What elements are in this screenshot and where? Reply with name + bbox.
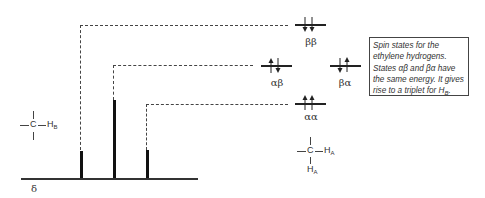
connector-middle-vertical <box>113 65 114 100</box>
bond-top <box>310 137 311 145</box>
delta-axis-label: δ <box>28 183 40 194</box>
spectrum-baseline <box>21 178 198 180</box>
connector-middle-horizontal <box>113 65 253 66</box>
ha-fragment: C HA HA <box>296 134 356 184</box>
bond-bottom <box>310 157 311 164</box>
hb-fragment: C HB <box>18 111 68 141</box>
spin-down-arrow-icon <box>307 17 317 33</box>
spin-down-arrow-icon <box>273 58 283 74</box>
connector-outer-horizontal <box>80 25 288 26</box>
ha-right-label: HA <box>324 145 335 156</box>
bond-bottom <box>33 132 34 140</box>
peak-center <box>113 100 116 178</box>
peak-right <box>146 150 149 178</box>
connector-inner-horizontal <box>146 104 288 105</box>
level-alpha-alpha-label: αα <box>300 111 322 122</box>
bond-left <box>297 151 306 152</box>
connector-inner-vertical <box>146 104 147 150</box>
level-alpha-beta-label: αβ <box>266 77 288 88</box>
level-beta-beta-label: ββ <box>300 36 322 47</box>
spin-up-arrow-icon <box>307 94 317 110</box>
hb-label: HB <box>47 119 58 130</box>
peak-left <box>80 151 83 178</box>
carbon-label: C <box>307 145 314 155</box>
connector-outer-vertical <box>80 25 81 150</box>
carbon-label: C <box>30 119 37 129</box>
level-beta-alpha-label: βα <box>334 77 356 88</box>
bond-right <box>38 125 46 126</box>
spin-states-note: Spin states for the ethylene hydrogens. … <box>369 37 469 96</box>
spin-up-arrow-icon <box>342 56 352 72</box>
ha-bottom-label: HA <box>307 164 318 175</box>
bond-right <box>315 151 323 152</box>
bond-top <box>33 111 34 119</box>
bond-left <box>20 125 29 126</box>
